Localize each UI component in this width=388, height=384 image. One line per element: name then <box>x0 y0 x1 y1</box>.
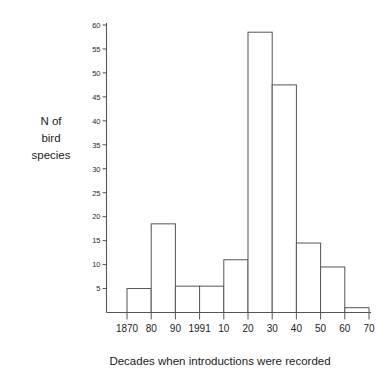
x-tick-label: 70 <box>363 323 375 334</box>
chart-canvas: 5101520253035404550556018708090199110203… <box>0 0 388 384</box>
y-tick-label: 40 <box>92 117 100 126</box>
x-tick-label: 80 <box>146 323 158 334</box>
x-tick-label: 40 <box>291 323 303 334</box>
x-tick-label: 20 <box>242 323 254 334</box>
y-tick-label: 60 <box>92 21 100 30</box>
histogram-bar <box>248 32 272 312</box>
x-ticks-group: 18708090199110203040506070 <box>116 313 375 334</box>
histogram-bar <box>175 286 199 312</box>
histogram-bar <box>224 260 248 313</box>
y-tick-label: 25 <box>92 189 100 198</box>
bars-group <box>127 32 369 312</box>
y-tick-label: 5 <box>96 284 100 293</box>
x-tick-label: 50 <box>315 323 327 334</box>
x-tick-label: 1991 <box>188 323 211 334</box>
y-tick-label: 10 <box>92 260 100 269</box>
histogram-bar <box>272 85 296 313</box>
x-tick-label: 90 <box>170 323 182 334</box>
histogram-bar <box>345 308 369 313</box>
y-tick-label: 50 <box>92 69 100 78</box>
histogram-figure: N of bird species Decades when introduct… <box>0 0 388 384</box>
x-tick-label: 10 <box>218 323 230 334</box>
histogram-bar <box>321 267 345 313</box>
y-tick-label: 45 <box>92 93 100 102</box>
plot-area: 5101520253035404550556018708090199110203… <box>0 0 388 384</box>
y-tick-label: 55 <box>92 45 100 54</box>
y-tick-label: 20 <box>92 212 100 221</box>
x-tick-label: 30 <box>267 323 279 334</box>
y-tick-label: 35 <box>92 141 100 150</box>
y-tick-label: 30 <box>92 165 100 174</box>
histogram-bar <box>200 286 224 312</box>
histogram-bar <box>296 243 320 312</box>
y-ticks-group: 51015202530354045505560 <box>92 21 106 294</box>
x-tick-label: 60 <box>339 323 351 334</box>
x-tick-label: 1870 <box>116 323 139 334</box>
histogram-bar <box>127 289 151 313</box>
histogram-bar <box>151 224 175 313</box>
y-tick-label: 15 <box>92 236 100 245</box>
